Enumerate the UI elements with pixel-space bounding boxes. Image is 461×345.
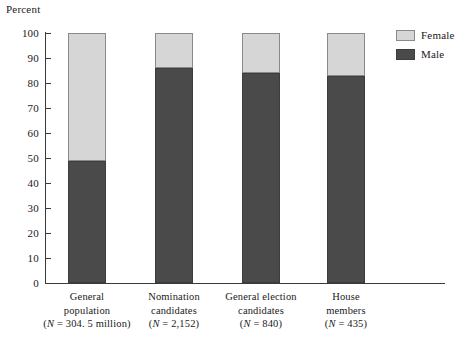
y-tick-label: 60 — [13, 128, 39, 139]
y-tick-label: 80 — [13, 78, 39, 89]
y-tick-label: 20 — [13, 228, 39, 239]
y-tick-label-wrap-90: 90 — [9, 53, 39, 64]
y-tick-label: 10 — [13, 253, 39, 264]
bar-segment-male[interactable] — [68, 161, 106, 284]
y-tick-label-wrap-60: 60 — [9, 128, 39, 139]
bar-segment-female[interactable] — [327, 33, 365, 76]
y-tick-label-wrap-80: 80 — [9, 78, 39, 89]
bar-segment-male[interactable] — [327, 76, 365, 284]
bar-1[interactable] — [68, 33, 106, 283]
bar-segment-female[interactable] — [242, 33, 280, 73]
y-axis-title: Percent — [6, 3, 40, 16]
y-tick-label: 40 — [13, 178, 39, 189]
y-tick-label: 90 — [13, 53, 39, 64]
bar-2[interactable] — [155, 33, 193, 283]
legend-item-male[interactable]: Male — [396, 47, 458, 66]
legend-label-female: Female — [421, 28, 455, 43]
y-tick-label: 0 — [13, 278, 39, 289]
bar-segment-male[interactable] — [242, 73, 280, 283]
y-tick-label-wrap-50: 50 — [9, 153, 39, 164]
category-sample-size: (N = 435) — [300, 317, 392, 331]
legend: Female Male — [396, 28, 458, 66]
bar-segment-male[interactable] — [155, 68, 193, 283]
male-swatch-icon — [396, 49, 415, 60]
y-tick-label: 70 — [13, 103, 39, 114]
plot-area — [45, 33, 385, 283]
y-tick-label-wrap-70: 70 — [9, 103, 39, 114]
legend-item-female[interactable]: Female — [396, 28, 458, 47]
bar-3[interactable] — [242, 33, 280, 283]
y-tick-label-wrap-10: 10 — [9, 253, 39, 264]
female-swatch-icon — [396, 30, 415, 41]
bar-segment-female[interactable] — [155, 33, 193, 68]
y-tick-label-wrap-100: 100 — [9, 28, 39, 39]
category-label-4: Housemembers(N = 435) — [300, 290, 392, 331]
y-tick-label: 30 — [13, 203, 39, 214]
x-axis-line — [45, 283, 445, 284]
y-tick-label-wrap-20: 20 — [9, 228, 39, 239]
y-tick-label-wrap-30: 30 — [9, 203, 39, 214]
category-label-line: members — [300, 304, 392, 318]
bar-segment-female[interactable] — [68, 33, 106, 161]
category-label-line: House — [300, 290, 392, 304]
bar-4[interactable] — [327, 33, 365, 283]
stacked-bar-chart: Percent 1009080706050403020100 Generalpo… — [0, 0, 461, 345]
y-tick-label-wrap-40: 40 — [9, 178, 39, 189]
y-tick-label: 100 — [13, 28, 39, 39]
y-tick-label: 50 — [13, 153, 39, 164]
y-tick-label-wrap-0: 0 — [9, 278, 39, 289]
legend-label-male: Male — [421, 47, 444, 62]
y-tick-0 — [45, 283, 51, 284]
